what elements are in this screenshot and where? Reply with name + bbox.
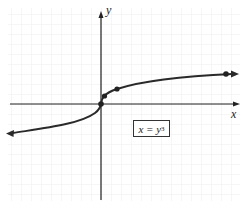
x-axis-label: x <box>231 107 236 122</box>
point-eight-two <box>223 71 229 77</box>
point-eighth-half <box>102 93 107 98</box>
equation-exponent: 3 <box>161 125 165 133</box>
y-axis-label: y <box>106 3 111 18</box>
point-one-one <box>114 86 119 91</box>
point-origin <box>98 101 104 107</box>
equation-text: x = y <box>138 123 161 135</box>
cube-root-graph <box>0 0 243 211</box>
equation-label: x = y3 <box>133 120 170 137</box>
